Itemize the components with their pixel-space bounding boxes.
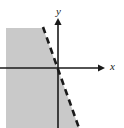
- graph-figure: y x: [0, 0, 124, 128]
- y-axis-arrowhead-icon: [54, 18, 61, 25]
- x-axis-label: x: [110, 61, 115, 72]
- x-axis-arrowhead-icon: [98, 64, 105, 71]
- shaded-solution-region: [6, 28, 79, 128]
- y-axis-label: y: [56, 6, 61, 17]
- coordinate-plane-svg: [0, 0, 124, 128]
